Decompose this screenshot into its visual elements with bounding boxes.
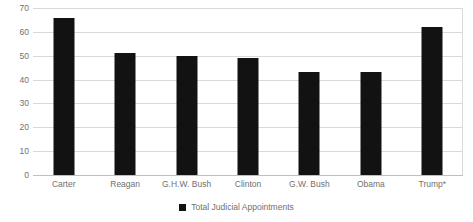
bar[interactable] [115,53,136,175]
x-axis-tick-label: Clinton [235,179,261,189]
y-axis-tick-label: 60 [3,28,29,37]
chart-legend: Total Judicial Appointments [0,203,473,212]
bar-slot [217,8,278,175]
y-axis-tick-label: 20 [3,123,29,132]
y-axis-tick-label: 30 [3,99,29,108]
bar-slot [340,8,401,175]
x-axis: CarterReaganG.H.W. BushClintonG.W. BushO… [33,179,463,193]
legend-square-marker [179,204,186,211]
y-axis-tick-label: 70 [3,4,29,13]
legend-label: Total Judicial Appointments [191,203,294,212]
bar-slot [156,8,217,175]
bars-layer [33,8,463,175]
bar-slot [402,8,463,175]
bar[interactable] [422,27,443,175]
bar[interactable] [360,72,381,175]
bar[interactable] [299,72,320,175]
bar-slot [279,8,340,175]
x-axis-tick-label: G.W. Bush [289,179,330,189]
y-axis-tick-label: 40 [3,75,29,84]
x-axis-tick-label: Carter [52,179,76,189]
y-axis-tick-label: 0 [3,171,29,180]
bar[interactable] [53,18,74,175]
x-axis-tick-label: Trump* [419,179,447,189]
x-axis-tick-label: G.H.W. Bush [162,179,211,189]
y-axis-tick-label: 50 [3,51,29,60]
bar-chart: 010203040506070 CarterReaganG.H.W. BushC… [0,0,473,222]
x-axis-tick-label: Reagan [110,179,140,189]
bar-slot [94,8,155,175]
y-axis-tick-label: 10 [3,147,29,156]
bar[interactable] [237,58,258,175]
bar-slot [33,8,94,175]
gridline [33,175,463,176]
x-axis-tick-label: Obama [357,179,385,189]
bar[interactable] [176,56,197,175]
